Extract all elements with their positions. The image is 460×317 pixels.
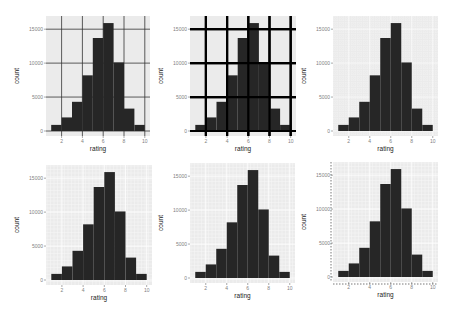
x-tick-label: 2 (60, 138, 63, 144)
histogram-bar (269, 256, 280, 278)
x-tick-label: 6 (103, 287, 106, 293)
y-tick-label: 15000 (29, 175, 43, 181)
histogram-bar (216, 249, 227, 278)
x-tick-label: 2 (347, 138, 350, 144)
y-axis-title: count (300, 214, 307, 230)
x-tick-label: 8 (123, 138, 126, 144)
x-tick-label: 2 (204, 285, 207, 291)
histogram-bar (338, 125, 349, 131)
histogram-bar (62, 266, 73, 280)
y-tick-label: 0 (40, 128, 43, 134)
histogram-bar (72, 102, 82, 131)
histogram-bar (51, 125, 61, 131)
histogram-bar (422, 125, 433, 131)
x-tick-label: 6 (246, 285, 249, 291)
histogram-bar (227, 75, 238, 131)
histogram-bar (93, 38, 103, 131)
x-tick-label: 8 (410, 284, 413, 290)
x-tick-label: 6 (389, 284, 392, 290)
histogram-bar (115, 211, 126, 280)
x-tick-label: 8 (268, 138, 271, 144)
y-tick-label: 0 (184, 128, 187, 134)
y-tick-label: 5000 (319, 240, 330, 246)
x-axis-title: rating (90, 145, 107, 153)
histogram-panel-6: 246810050001000015000ratingcount (300, 162, 438, 299)
histogram-bar (401, 208, 412, 277)
x-tick-label: 4 (368, 284, 371, 290)
y-tick-label: 15000 (316, 172, 330, 178)
histogram-bar (82, 75, 92, 131)
histogram-bar (83, 224, 94, 280)
histogram-bar (370, 221, 381, 277)
histogram-bar (422, 271, 433, 277)
x-tick-label: 8 (410, 138, 413, 144)
x-tick-label: 10 (144, 287, 150, 293)
y-tick-label: 10000 (173, 60, 187, 66)
x-tick-label: 4 (81, 138, 84, 144)
y-axis-title: count (300, 68, 307, 84)
y-tick-label: 0 (40, 277, 43, 283)
x-tick-label: 2 (205, 138, 208, 144)
histogram-bar (359, 248, 370, 277)
histogram-bar (359, 102, 370, 131)
y-tick-label: 15000 (173, 26, 187, 32)
y-tick-label: 10000 (29, 60, 43, 66)
histogram-bar (380, 184, 391, 277)
histogram-bar (103, 23, 113, 131)
y-tick-label: 15000 (173, 173, 187, 179)
histogram-bar (134, 125, 144, 131)
histogram-bar (380, 38, 391, 131)
histogram-bar (258, 209, 269, 278)
histogram-bar (136, 274, 147, 280)
y-axis-title: count (157, 215, 164, 231)
x-axis-title: rating (377, 145, 394, 153)
histogram-bar (195, 272, 206, 278)
x-tick-label: 6 (389, 138, 392, 144)
histogram-grid: 246810050001000015000ratingcount24681005… (0, 0, 460, 317)
histogram-bar (370, 75, 381, 131)
x-axis-title: rating (91, 294, 108, 302)
histogram-bar (94, 187, 105, 280)
x-tick-label: 4 (226, 138, 229, 144)
y-axis-title: count (157, 68, 164, 84)
y-tick-label: 0 (327, 128, 330, 134)
histogram-bar (206, 264, 217, 278)
histogram-bar (270, 109, 281, 131)
x-tick-label: 2 (61, 287, 64, 293)
x-tick-label: 4 (225, 285, 228, 291)
histogram-bar (349, 117, 360, 131)
histogram-bar (279, 272, 290, 278)
histogram-bar (217, 102, 228, 131)
y-axis-title: count (13, 68, 20, 84)
histogram-panel-2: 246810050001000015000ratingcount (157, 16, 296, 153)
histogram-bar (412, 109, 423, 131)
histogram-bar (126, 258, 137, 280)
histogram-bar (237, 185, 248, 278)
histogram-panels: 246810050001000015000ratingcount24681005… (0, 0, 460, 317)
y-tick-label: 10000 (316, 60, 330, 66)
histogram-bar (104, 172, 115, 280)
histogram-panel-5: 246810050001000015000ratingcount (157, 163, 295, 300)
x-tick-label: 10 (142, 138, 148, 144)
histogram-bar (51, 274, 62, 280)
y-tick-label: 10000 (316, 206, 330, 212)
histogram-bar (248, 23, 259, 131)
x-tick-label: 6 (247, 138, 250, 144)
x-tick-label: 2 (347, 284, 350, 290)
x-tick-label: 10 (287, 285, 293, 291)
histogram-bar (391, 23, 402, 131)
y-tick-label: 0 (327, 274, 330, 280)
y-tick-label: 10000 (173, 207, 187, 213)
x-axis-title: rating (377, 291, 394, 299)
histogram-bar (338, 271, 349, 277)
y-tick-label: 15000 (29, 26, 43, 32)
histogram-bar (62, 117, 72, 131)
y-tick-label: 5000 (176, 241, 187, 247)
y-tick-label: 10000 (29, 209, 43, 215)
y-tick-label: 5000 (32, 94, 43, 100)
x-tick-label: 6 (102, 138, 105, 144)
histogram-bar (227, 222, 238, 278)
y-axis-title: count (13, 217, 20, 233)
y-tick-label: 5000 (319, 94, 330, 100)
x-axis-title: rating (234, 292, 251, 300)
